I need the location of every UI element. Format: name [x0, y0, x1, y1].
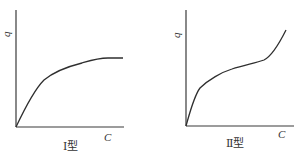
- y-axis-label: q: [0, 31, 12, 37]
- isotherm-curve-type-2: [186, 30, 286, 126]
- isotherm-diagram: q C Ⅰ型 q C Ⅱ型: [0, 0, 299, 153]
- x-axis-label: C: [278, 128, 286, 140]
- panel-caption: Ⅰ型: [63, 139, 78, 153]
- panel-caption: Ⅱ型: [226, 136, 244, 150]
- y-axis-label: q: [170, 32, 182, 38]
- x-axis-label: C: [104, 131, 112, 143]
- panel-type-1: q C Ⅰ型: [0, 10, 124, 153]
- panel-type-2: q C Ⅱ型: [170, 10, 294, 150]
- isotherm-curve-type-1: [16, 58, 123, 127]
